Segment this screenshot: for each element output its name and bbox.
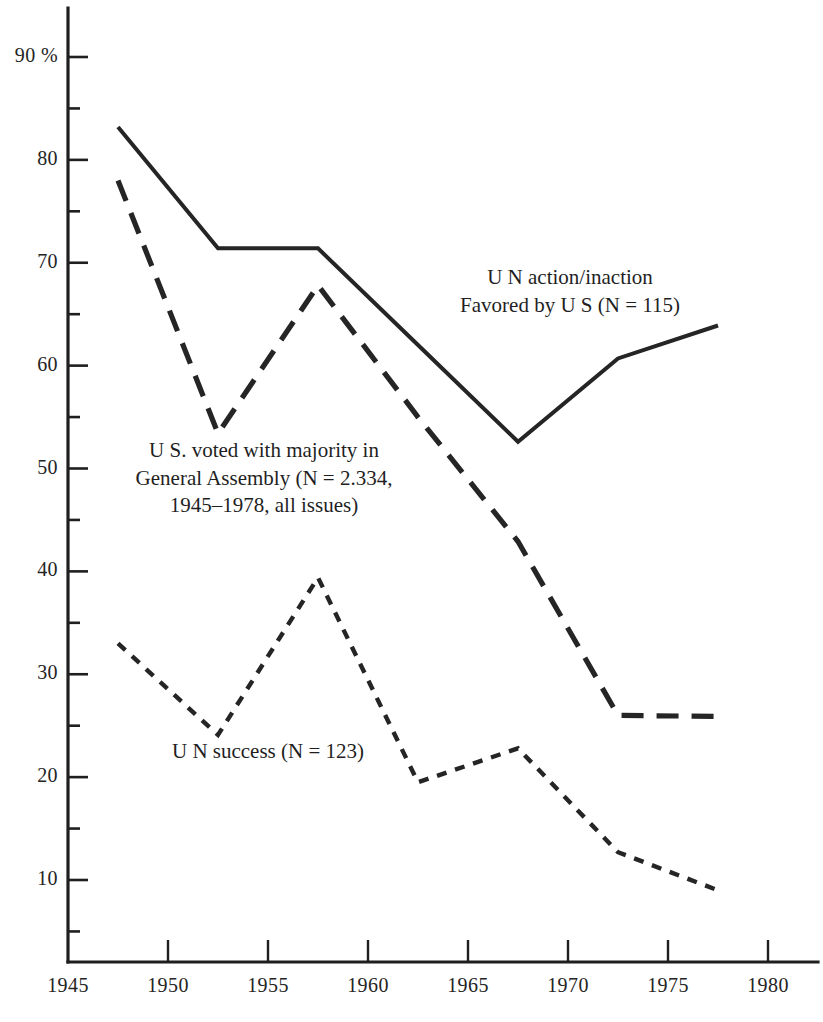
y-axis-minor-ticks <box>68 108 80 931</box>
x-axis-tick-label: 1970 <box>528 974 608 997</box>
annotation-line: U N success (N = 123) <box>128 738 408 766</box>
y-axis-tick-label: 40 <box>0 558 58 581</box>
annotation-us-voted: U S. voted with majority inGeneral Assem… <box>104 437 424 520</box>
x-axis-tick-label: 1945 <box>28 974 108 997</box>
annotation-line: General Assembly (N = 2.334, <box>104 465 424 493</box>
y-axis-tick-label: 20 <box>0 764 58 787</box>
annotation-un-success: U N success (N = 123) <box>128 738 408 766</box>
x-axis-tick-label: 1950 <box>128 974 208 997</box>
x-axis-tick-label: 1980 <box>728 974 808 997</box>
y-axis-tick-label: 90 % <box>0 44 58 67</box>
x-axis-ticks <box>168 940 768 962</box>
x-axis-tick-label: 1975 <box>628 974 708 997</box>
annotation-line: 1945–1978, all issues) <box>104 492 424 520</box>
y-axis-tick-label: 60 <box>0 353 58 376</box>
chart-series-line-3 <box>118 578 718 891</box>
annotation-un-action: U N action/inactionFavored by U S (N = 1… <box>415 264 725 319</box>
y-axis-tick-label: 30 <box>0 661 58 684</box>
y-axis-tick-label: 50 <box>0 456 58 479</box>
y-axis-tick-label: 10 <box>0 867 58 890</box>
annotation-line: U S. voted with majority in <box>104 437 424 465</box>
y-axis-tick-label: 70 <box>0 250 58 273</box>
annotation-line: Favored by U S (N = 115) <box>415 292 725 320</box>
x-axis-tick-label: 1955 <box>228 974 308 997</box>
y-axis-ticks <box>68 57 88 880</box>
annotation-line: U N action/inaction <box>415 264 725 292</box>
x-axis-tick-label: 1960 <box>328 974 408 997</box>
x-axis-tick-label: 1965 <box>428 974 508 997</box>
chart-container: 102030405060708090 % 1945195019551960196… <box>0 0 823 1022</box>
y-axis-tick-label: 80 <box>0 147 58 170</box>
